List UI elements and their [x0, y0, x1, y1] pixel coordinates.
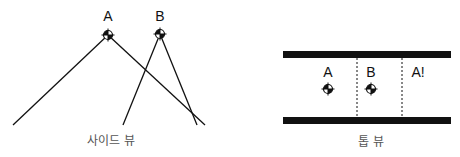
side-view-caption: 사이드 뷰 [87, 135, 135, 147]
top-view-upper-wall [283, 51, 451, 58]
top-view-label-b: B [366, 65, 375, 79]
side-view-lines [13, 34, 205, 125]
side-view-label-b: B [155, 9, 164, 23]
top-view-label-a-prime: A! [411, 65, 424, 79]
top-view-marker-b-icon [365, 83, 378, 96]
top-view-marker-a-icon [322, 83, 335, 96]
side-view-marker-b-icon [154, 28, 167, 41]
top-view-label-a: A [323, 65, 332, 79]
diagram-canvas [0, 0, 460, 157]
side-view-label-a: A [103, 9, 112, 23]
top-view-lower-wall [283, 117, 451, 124]
top-view-caption: 톱 뷰 [358, 136, 384, 148]
